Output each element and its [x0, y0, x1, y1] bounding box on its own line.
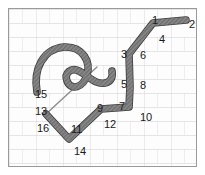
- vertex-label-5: 5: [121, 79, 127, 90]
- vertex-label-2: 2: [189, 19, 195, 30]
- hook-curve-path: [36, 47, 112, 92]
- vertex-label-13: 13: [35, 106, 47, 117]
- vertex-label-10: 10: [140, 112, 152, 123]
- vertex-label-9: 9: [97, 103, 103, 114]
- figure-frame: 12345678910111213141516: [8, 8, 197, 167]
- vertex-label-4: 4: [159, 34, 165, 45]
- vertex-label-6: 6: [140, 50, 146, 61]
- vertex-label-1: 1: [152, 15, 158, 26]
- vertex-label-14: 14: [74, 146, 86, 157]
- vertex-label-7: 7: [119, 101, 125, 112]
- vertex-label-12: 12: [104, 119, 116, 130]
- vertex-label-8: 8: [140, 80, 146, 91]
- vertex-label-16: 16: [37, 123, 49, 134]
- stroke-order-figure: 12345678910111213141516: [0, 0, 205, 175]
- vertex-label-11: 11: [71, 124, 82, 135]
- vertex-label-15: 15: [35, 89, 47, 100]
- vertex-label-3: 3: [121, 49, 127, 60]
